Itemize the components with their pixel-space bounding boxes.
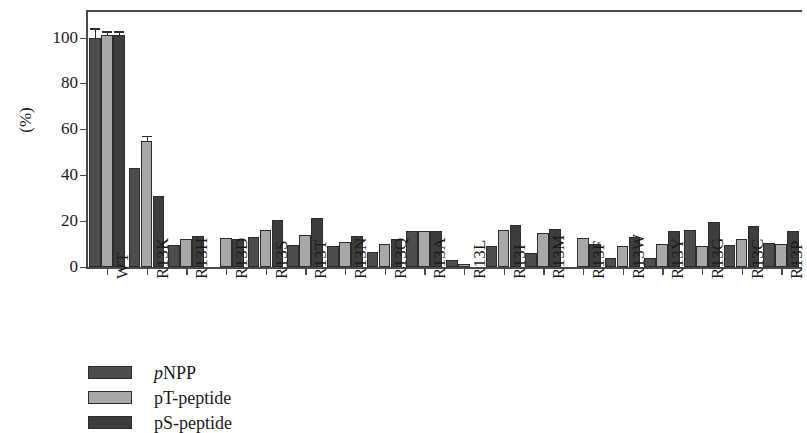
bar — [775, 244, 787, 267]
error-bar — [107, 33, 109, 35]
bar — [260, 230, 272, 267]
legend-label: pT-peptide — [154, 389, 231, 407]
x-tick-label: R13N — [351, 238, 371, 279]
bar-group — [168, 15, 204, 267]
x-tick-label: R13I — [510, 244, 530, 279]
legend-label: pNPP — [154, 364, 196, 382]
x-tick-label: R13Y — [668, 238, 688, 279]
x-tick-label: R13H — [192, 238, 212, 279]
x-tick-mark — [266, 268, 268, 275]
bar — [498, 230, 510, 267]
bar-chart-figure: (%) 020406080100 WTR13KR13HR13DR13SR13TR… — [0, 0, 807, 433]
x-tick-mark — [464, 268, 466, 275]
bar — [656, 244, 668, 267]
error-bar — [95, 30, 97, 38]
bar-group — [367, 15, 403, 267]
legend-swatch — [88, 416, 132, 429]
x-tick-label: R13Q — [391, 238, 411, 279]
x-tick-label: R13P — [787, 240, 807, 279]
bar — [577, 238, 589, 267]
x-tick-mark — [702, 268, 704, 275]
y-tick-label: 20 — [34, 212, 78, 229]
bar-group — [406, 15, 442, 267]
legend-swatch — [88, 391, 132, 404]
bar — [141, 141, 153, 267]
bar-group — [208, 15, 244, 267]
bar-group — [486, 15, 522, 267]
x-tick-label: R13M — [549, 235, 569, 279]
error-bar-cap — [114, 31, 124, 33]
error-bar — [147, 137, 149, 140]
x-tick-mark — [385, 268, 387, 275]
bar — [418, 231, 430, 267]
bar — [113, 35, 125, 267]
bar-group — [605, 15, 641, 267]
y-tick-label: 80 — [34, 74, 78, 91]
legend-item: pNPP — [88, 360, 232, 385]
x-tick-label: R13C — [748, 239, 768, 279]
bar-group — [763, 15, 799, 267]
x-tick-mark — [742, 268, 744, 275]
top-axis-line — [86, 10, 802, 12]
bar-group — [248, 15, 284, 267]
legend-label: pS-peptide — [154, 414, 232, 432]
legend-item: pT-peptide — [88, 385, 232, 410]
legend-swatch — [88, 366, 132, 379]
bar — [299, 235, 311, 267]
x-tick-mark — [147, 268, 149, 275]
bar-group — [724, 15, 760, 267]
x-tick-mark — [543, 268, 545, 275]
x-tick-mark — [504, 268, 506, 275]
x-tick-label: R13T — [311, 239, 331, 279]
y-axis-label: (%) — [16, 100, 36, 140]
x-tick-label: R13K — [153, 238, 173, 279]
bar-group — [525, 15, 561, 267]
bar — [180, 239, 192, 267]
x-tick-mark — [662, 268, 664, 275]
x-tick-mark — [623, 268, 625, 275]
chart-legend: pNPPpT-peptidepS-peptide — [88, 360, 232, 433]
bar-group — [89, 15, 125, 267]
bar — [458, 264, 470, 267]
x-tick-mark — [107, 268, 109, 275]
error-bar-cap — [102, 31, 112, 33]
x-tick-label: R13G — [708, 238, 728, 279]
error-bar-cap — [142, 136, 152, 138]
bar-group — [327, 15, 363, 267]
x-tick-label: R13W — [629, 234, 649, 279]
x-tick-mark — [424, 268, 426, 275]
bar — [736, 239, 748, 267]
bar — [220, 238, 232, 267]
x-tick-label: R13D — [232, 238, 252, 279]
x-tick-label: R13S — [272, 240, 292, 279]
y-tick-label: 60 — [34, 120, 78, 137]
error-bar-cap — [90, 28, 100, 30]
y-tick-label: 0 — [34, 258, 78, 275]
x-tick-label: R13F — [589, 240, 609, 279]
x-tick-mark — [781, 268, 783, 275]
bar-group — [129, 15, 165, 267]
bar-group — [446, 15, 482, 267]
bar — [379, 244, 391, 267]
x-tick-label: R13L — [470, 239, 490, 279]
bar-group — [684, 15, 720, 267]
x-tick-label: R13A — [430, 238, 450, 279]
bar-group — [565, 15, 601, 267]
y-tick-label: 100 — [34, 29, 78, 46]
bar — [101, 35, 113, 267]
bar — [696, 246, 708, 267]
x-tick-mark — [345, 268, 347, 275]
bar — [339, 242, 351, 267]
x-tick-mark — [186, 268, 188, 275]
y-tick-label: 40 — [34, 166, 78, 183]
x-tick-label: WT — [113, 252, 133, 279]
bar — [617, 246, 629, 267]
bar — [89, 38, 101, 267]
x-tick-mark — [305, 268, 307, 275]
bar-group — [644, 15, 680, 267]
plot-area — [87, 15, 802, 267]
x-tick-mark — [226, 268, 228, 275]
x-tick-mark — [583, 268, 585, 275]
error-bar — [119, 33, 121, 35]
legend-item: pS-peptide — [88, 410, 232, 433]
